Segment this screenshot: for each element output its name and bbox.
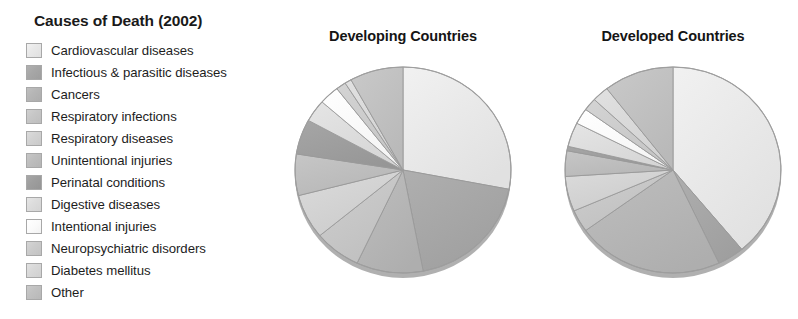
- legend-item-label: Neuropsychiatric disorders: [51, 241, 206, 256]
- legend-color-swatch: [26, 65, 42, 80]
- legend-color-swatch: [26, 131, 42, 146]
- legend-item: Other: [26, 281, 276, 303]
- legend-item-label: Cardiovascular diseases: [51, 43, 194, 58]
- legend-item-label: Cancers: [51, 87, 100, 102]
- legend-color-swatch: [26, 43, 42, 58]
- legend-item: Perinatal conditions: [26, 171, 276, 193]
- legend-item-label: Unintentional injuries: [51, 153, 172, 168]
- chart-title-developing: Developing Countries: [278, 28, 528, 44]
- legend-color-swatch: [26, 109, 42, 124]
- legend-item: Unintentional injuries: [26, 149, 276, 171]
- legend-item-label: Intentional injuries: [51, 219, 156, 234]
- legend-item: Infectious & parasitic diseases: [26, 61, 276, 83]
- legend-item: Respiratory diseases: [26, 127, 276, 149]
- legend: Causes of Death (2002) Cardiovascular di…: [26, 12, 276, 303]
- pie-slice[interactable]: Cardiovascular diseases: 28%: [403, 67, 511, 189]
- legend-color-swatch: [26, 197, 42, 212]
- pie-svg-developing: Cardiovascular diseases: 28%Infectious &…: [278, 62, 528, 287]
- legend-item-label: Perinatal conditions: [51, 175, 165, 190]
- pie-area-developed: Cardiovascular diseases: 39%Infectious &…: [548, 62, 798, 287]
- legend-item-label: Respiratory infections: [51, 109, 177, 124]
- legend-item: Intentional injuries: [26, 215, 276, 237]
- pie-chart-developed-countries: Developed Countries Cardiovascular disea…: [548, 0, 798, 319]
- chart-title-developed: Developed Countries: [548, 28, 798, 44]
- legend-item: Diabetes mellitus: [26, 259, 276, 281]
- legend-color-swatch: [26, 175, 42, 190]
- legend-item-label: Other: [51, 285, 84, 300]
- legend-item-label: Respiratory diseases: [51, 131, 173, 146]
- pie-area-developing: Cardiovascular diseases: 28%Infectious &…: [278, 62, 528, 287]
- legend-color-swatch: [26, 219, 42, 234]
- legend-item-list: Cardiovascular diseasesInfectious & para…: [26, 39, 276, 303]
- legend-item-label: Diabetes mellitus: [51, 263, 151, 278]
- legend-item: Neuropsychiatric disorders: [26, 237, 276, 259]
- legend-color-swatch: [26, 241, 42, 256]
- pie-chart-developing-countries: Developing Countries Cardiovascular dise…: [278, 0, 528, 319]
- legend-item: Cardiovascular diseases: [26, 39, 276, 61]
- legend-color-swatch: [26, 87, 42, 102]
- legend-title: Causes of Death (2002): [34, 12, 276, 30]
- legend-color-swatch: [26, 263, 42, 278]
- legend-item-label: Digestive diseases: [51, 197, 160, 212]
- legend-item: Digestive diseases: [26, 193, 276, 215]
- legend-item: Cancers: [26, 83, 276, 105]
- pie-svg-developed: Cardiovascular diseases: 39%Infectious &…: [548, 62, 798, 287]
- legend-color-swatch: [26, 285, 42, 300]
- legend-color-swatch: [26, 153, 42, 168]
- legend-item-label: Infectious & parasitic diseases: [51, 65, 227, 80]
- legend-item: Respiratory infections: [26, 105, 276, 127]
